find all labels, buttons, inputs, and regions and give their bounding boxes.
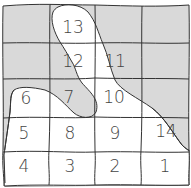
- cell-3-label: 3: [65, 158, 76, 175]
- cell-1-label: 1: [160, 158, 171, 175]
- cell-7-label: 7: [64, 89, 75, 106]
- cell-14-label: 14: [155, 123, 177, 140]
- cell-6-label: 6: [21, 90, 32, 107]
- cell-4-label: 4: [19, 158, 30, 175]
- cell-11-label: 11: [104, 53, 126, 70]
- grid-diagram: 13 12 11 6 7 10 5 8 9 14 4 3 2 1: [0, 0, 191, 188]
- cell-8-label: 8: [65, 125, 76, 142]
- cell-13-label: 13: [62, 19, 84, 36]
- cell-12-label: 12: [62, 53, 84, 70]
- cell-2-label: 2: [110, 158, 121, 175]
- cell-10-label: 10: [103, 89, 125, 106]
- cell-9-label: 9: [110, 125, 121, 142]
- cell-5-label: 5: [19, 125, 30, 142]
